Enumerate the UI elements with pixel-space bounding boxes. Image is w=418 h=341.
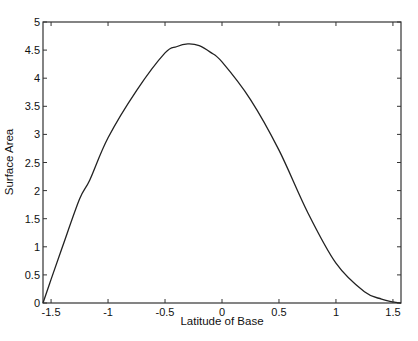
y-tick-label: 2 — [34, 185, 40, 197]
x-tick-label: -1.5 — [42, 306, 61, 318]
y-axis-label: Surface Area — [3, 128, 15, 195]
x-tick-label: 1 — [333, 306, 339, 318]
y-tick-label: 4 — [34, 72, 40, 84]
y-tick-label: 0.5 — [25, 269, 40, 281]
y-tick-label: 3 — [34, 128, 40, 140]
y-tick-label: 1.5 — [25, 213, 40, 225]
x-axis-ticks: -1.5-1-0.500.511.5 — [42, 22, 401, 318]
y-tick-label: 5 — [34, 16, 40, 28]
y-tick-label: 1 — [34, 241, 40, 253]
y-axis-ticks: 00.511.522.533.544.55 — [25, 16, 401, 309]
y-tick-label: 3.5 — [25, 100, 40, 112]
data-line — [43, 44, 401, 303]
y-tick-label: 4.5 — [25, 44, 40, 56]
x-tick-label: -0.5 — [156, 306, 175, 318]
x-axis-label: Latitude of Base — [180, 315, 263, 327]
y-tick-label: 0 — [34, 297, 40, 309]
chart: -1.5-1-0.500.511.5 00.511.522.533.544.55… — [0, 0, 418, 341]
x-tick-label: -1 — [103, 306, 113, 318]
x-tick-label: 1.5 — [385, 306, 400, 318]
plot-area — [43, 22, 401, 303]
x-tick-label: 0.5 — [271, 306, 286, 318]
y-tick-label: 2.5 — [25, 157, 40, 169]
